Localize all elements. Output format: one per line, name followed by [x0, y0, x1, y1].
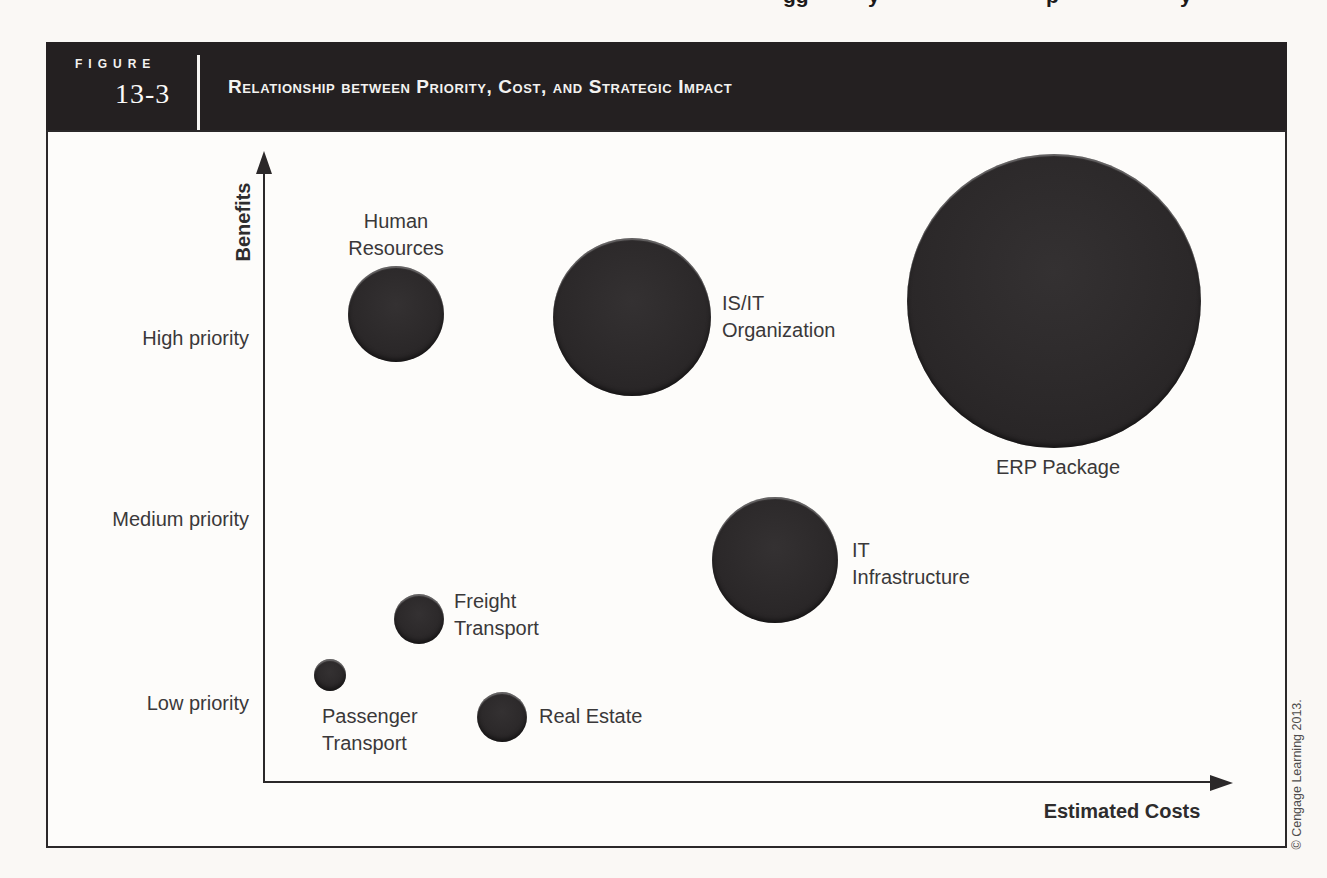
y-axis-arrow-icon: [256, 151, 272, 174]
figure-number: 13-3: [115, 78, 170, 110]
bubble-it-infrastructure: [712, 497, 838, 623]
y-tick-low-priority: Low priority: [79, 692, 249, 715]
label-is-it-organization: IS/IT Organization: [722, 290, 835, 344]
bubble-chart: Benefits Estimated Costs High priority M…: [46, 130, 1287, 848]
cropped-glyph: y: [868, 0, 880, 7]
x-axis-title: Estimated Costs: [1002, 800, 1242, 823]
y-axis-line: [263, 170, 265, 783]
x-axis-arrow-icon: [1210, 775, 1233, 791]
figure-header-banner: FIGURE 13-3 Relationship between Priorit…: [46, 42, 1287, 130]
bubble-freight-transport: [394, 594, 444, 644]
cropped-glyph: p: [1046, 0, 1059, 7]
bubble-erp-package: [907, 154, 1201, 448]
bubble-is-it-organization: [553, 238, 711, 396]
y-tick-medium-priority: Medium priority: [79, 508, 249, 531]
bubble-human-resources: [348, 266, 444, 362]
bubble-real-estate: [477, 692, 527, 742]
label-erp-package: ERP Package: [958, 454, 1158, 481]
label-real-estate: Real Estate: [539, 703, 642, 730]
x-axis-line: [264, 781, 1214, 783]
figure-container: FIGURE 13-3 Relationship between Priorit…: [46, 42, 1287, 848]
y-axis-title: Benefits: [232, 167, 256, 277]
label-passenger-transport: Passenger Transport: [322, 703, 418, 757]
cropped-glyph: y: [1180, 0, 1192, 7]
cropped-text-remnant: gg y p y: [0, 0, 1327, 7]
label-freight-transport: Freight Transport: [454, 588, 539, 642]
figure-number-block: FIGURE 13-3: [46, 42, 197, 130]
label-human-resources: Human Resources: [316, 208, 476, 262]
cropped-glyph: gg: [783, 0, 809, 7]
label-it-infrastructure: IT Infrastructure: [852, 537, 970, 591]
banner-divider: [197, 55, 200, 130]
bubble-passenger-transport: [314, 659, 346, 691]
figure-kicker-label: FIGURE: [75, 57, 156, 71]
y-tick-high-priority: High priority: [79, 327, 249, 350]
copyright-credit: © Cengage Learning 2013.: [1290, 690, 1307, 850]
figure-title: Relationship between Priority, Cost, and…: [228, 74, 732, 98]
